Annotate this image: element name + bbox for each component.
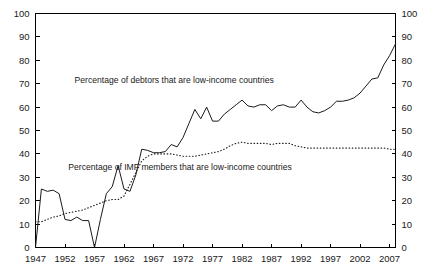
- x-axis-tick-label: 1952: [54, 253, 75, 264]
- x-axis-tick-label: 1957: [84, 253, 105, 264]
- chart-container: 0102030405060708090100 01020304050607080…: [0, 0, 433, 275]
- y-axis-left-tick-label: 0: [24, 242, 29, 253]
- y-axis-right-tick-label: 90: [402, 31, 413, 42]
- y-axis-left-tick-label: 30: [19, 172, 30, 183]
- y-axis-left-tick-label: 50: [19, 125, 30, 136]
- y-axis-left-tick-label: 60: [19, 102, 30, 113]
- x-axis-tick-label: 1992: [291, 253, 312, 264]
- y-axis-right-tick-label: 50: [402, 125, 413, 136]
- y-axis-right-tick-label: 30: [402, 172, 413, 183]
- line-chart: 0102030405060708090100 01020304050607080…: [0, 0, 433, 275]
- plot-frame: [36, 14, 396, 248]
- y-axis-left-labels: 0102030405060708090100: [14, 8, 30, 253]
- y-axis-right-tick-label: 10: [402, 219, 413, 230]
- imf-members-annotation: Percentage of IMF members that are low-i…: [68, 162, 292, 172]
- x-axis-tick-label: 1972: [172, 253, 193, 264]
- x-axis-tick-label: 1997: [320, 253, 341, 264]
- x-axis-tick-label: 1982: [231, 253, 252, 264]
- y-axis-right-tick-label: 40: [402, 148, 413, 159]
- axes-frame: [36, 14, 396, 248]
- y-axis-right-tick-label: 0: [402, 242, 407, 253]
- y-axis-left-tick-label: 40: [19, 148, 30, 159]
- x-axis-tick-label: 1977: [202, 253, 223, 264]
- y-axis-left-tick-label: 20: [19, 195, 30, 206]
- y-axis-right-tick-label: 80: [402, 55, 413, 66]
- y-axis-right-tick-label: 60: [402, 102, 413, 113]
- series-line-imf-members: [36, 142, 396, 222]
- x-axis-tick-label: 2002: [350, 253, 371, 264]
- annotation-layer: Percentage of debtors that are low-incom…: [68, 75, 292, 173]
- x-axis-ticks: [36, 244, 390, 248]
- y-axis-left-tick-label: 70: [19, 78, 30, 89]
- x-axis-tick-label: 1962: [113, 253, 134, 264]
- x-axis-labels: 1947195219571962196719721977198219871992…: [25, 253, 400, 264]
- y-axis-left-tick-label: 100: [14, 8, 30, 19]
- debtors-annotation: Percentage of debtors that are low-incom…: [75, 75, 274, 85]
- y-axis-left-tick-label: 10: [19, 219, 30, 230]
- x-axis-tick-label: 1967: [143, 253, 164, 264]
- y-axis-right-tick-label: 100: [402, 8, 418, 19]
- y-axis-right-tick-label: 70: [402, 78, 413, 89]
- y-axis-right-labels: 0102030405060708090100: [402, 8, 418, 253]
- y-axis-left-tick-label: 80: [19, 55, 30, 66]
- x-axis-tick-label: 2007: [379, 253, 400, 264]
- x-axis-tick-label: 1987: [261, 253, 282, 264]
- y-axis-left-tick-label: 90: [19, 31, 30, 42]
- y-axis-right-tick-label: 20: [402, 195, 413, 206]
- x-axis-tick-label: 1947: [25, 253, 46, 264]
